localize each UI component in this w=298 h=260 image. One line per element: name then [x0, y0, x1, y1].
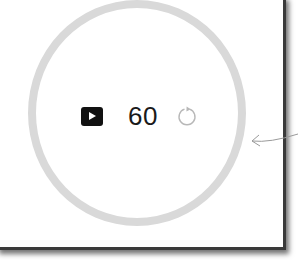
- timer-controls: 60: [81, 104, 197, 128]
- reset-button[interactable]: [177, 105, 197, 127]
- timer-value: 60: [128, 104, 158, 128]
- arrow-left-icon: [250, 128, 298, 148]
- play-icon: [87, 111, 97, 121]
- play-button[interactable]: [81, 107, 103, 126]
- reset-icon: [177, 105, 197, 127]
